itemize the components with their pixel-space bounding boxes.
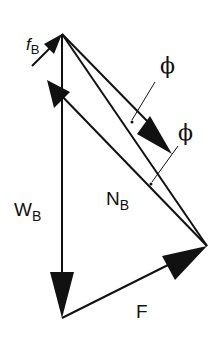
normal-force-vector: [47, 80, 207, 246]
arrowhead-icon: [162, 246, 207, 280]
label-WB: WB: [14, 199, 41, 224]
label-NB: NB: [106, 188, 129, 213]
label-F: F: [136, 301, 148, 322]
label-fB: fB: [26, 35, 39, 57]
force-F-vector: [62, 246, 207, 318]
arrowhead-icon: [50, 272, 74, 318]
label-phi-1: ϕ: [160, 53, 175, 78]
label-phi-2: ϕ: [178, 120, 193, 145]
arrowhead-icon: [47, 80, 70, 108]
weight-vector: [50, 34, 74, 318]
arrowhead-icon: [137, 116, 172, 154]
force-diagram: fB ϕ ϕ WB NB F: [0, 0, 217, 359]
